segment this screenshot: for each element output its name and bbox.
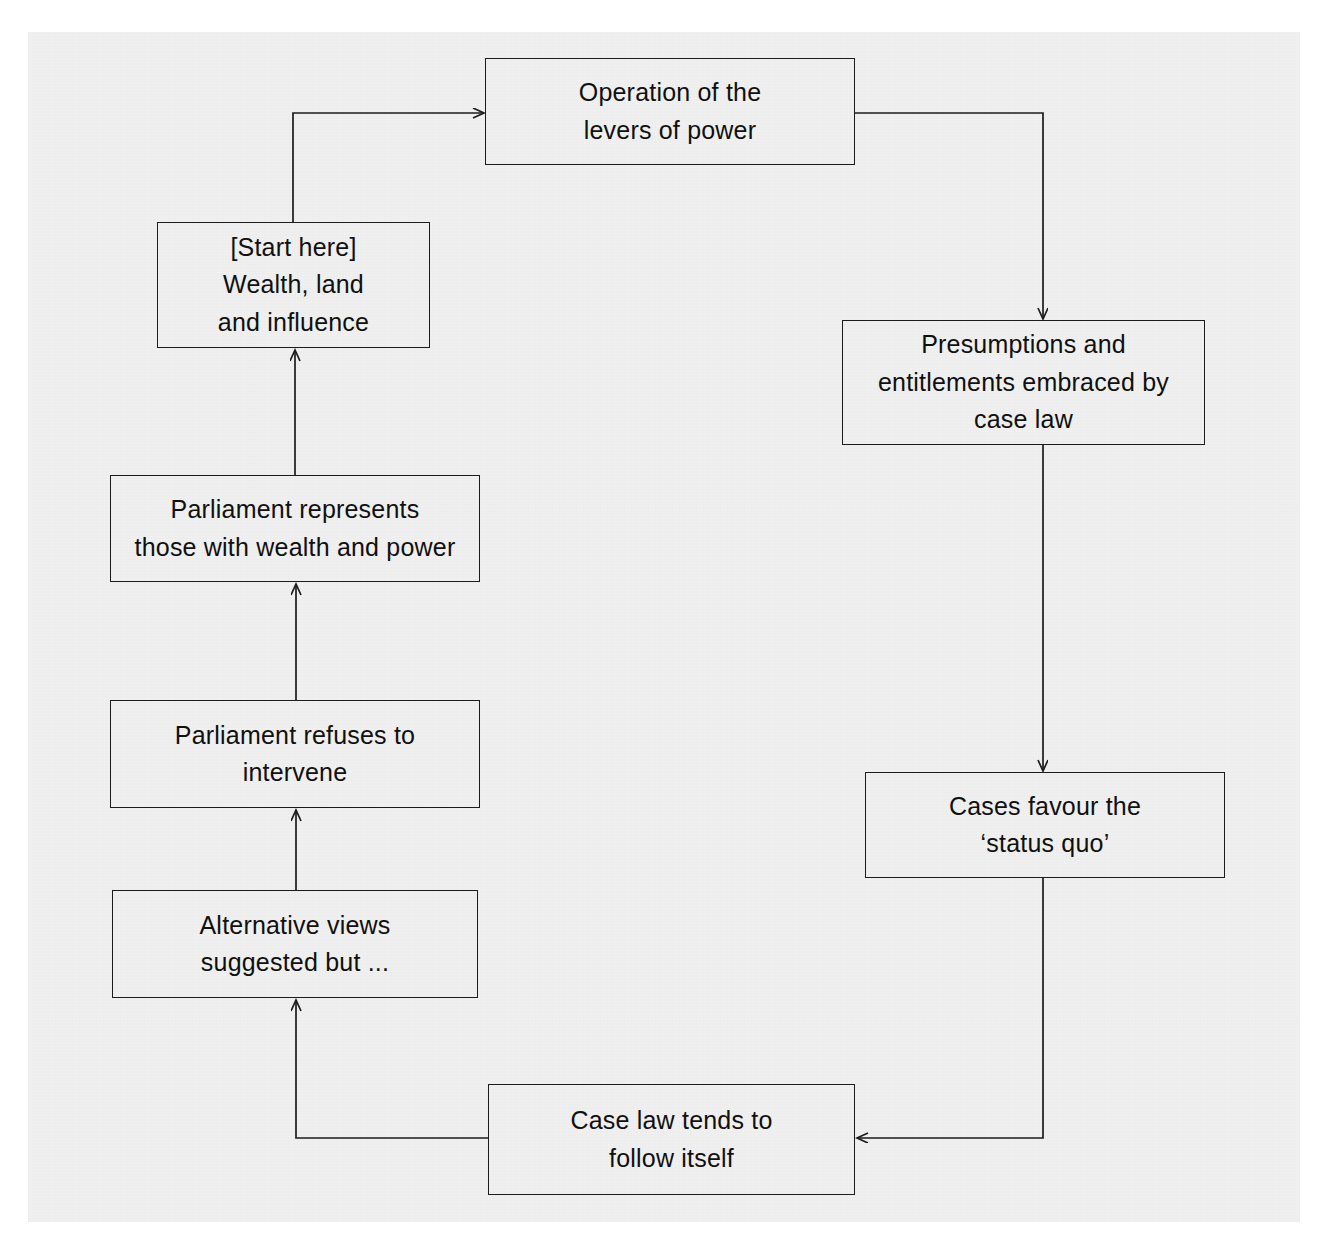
edge-case-law-to-alternative: [296, 1001, 488, 1138]
node-case-law-follows-itself[interactable]: Case law tends to follow itself: [488, 1084, 855, 1195]
edge-wealth-to-operation: [293, 113, 483, 222]
edge-cases-to-case-law: [858, 878, 1043, 1138]
edge-operation-to-presumptions: [855, 113, 1043, 318]
node-operation-of-levers[interactable]: Operation of the levers of power: [485, 58, 855, 165]
node-alternative-views[interactable]: Alternative views suggested but ...: [112, 890, 478, 998]
node-parliament-represents[interactable]: Parliament represents those with wealth …: [110, 475, 480, 582]
node-presumptions-entitlements[interactable]: Presumptions and entitlements embraced b…: [842, 320, 1205, 445]
node-cases-favour-status-quo[interactable]: Cases favour the ‘status quo’: [865, 772, 1225, 878]
flowchart-page: Operation of the levers of power [Start …: [0, 0, 1335, 1245]
connector-layer: [0, 0, 1335, 1245]
node-parliament-refuses[interactable]: Parliament refuses to intervene: [110, 700, 480, 808]
node-start-here-wealth[interactable]: [Start here] Wealth, land and influence: [157, 222, 430, 348]
